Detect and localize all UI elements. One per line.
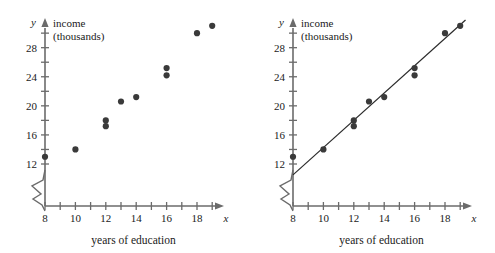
data-point: [290, 154, 296, 160]
x-tick-label: 12: [348, 212, 359, 224]
y-tick-label: 24: [274, 71, 286, 83]
data-point: [164, 72, 170, 78]
axis-break-zigzag: [32, 170, 45, 211]
axis-break-zigzag: [280, 170, 293, 211]
y-axis-name: y: [30, 16, 36, 28]
y-axis-caption-line2: (thousands): [53, 30, 105, 43]
x-tick-label: 14: [379, 212, 391, 224]
data-point: [72, 146, 78, 152]
x-tick-label: 14: [131, 212, 143, 224]
y-axis-name: y: [278, 16, 284, 28]
data-point: [164, 65, 170, 71]
data-point: [366, 98, 372, 104]
y-axis-caption-line2: (thousands): [301, 30, 353, 43]
chart-panel-right: 121620242881012141618yxincome(thousands)…: [248, 0, 495, 253]
y-tick-label: 16: [26, 129, 38, 141]
scatter-plot-left: 121620242881012141618yxincome(thousands)…: [0, 0, 247, 253]
data-point: [209, 23, 215, 29]
x-axis-arrowhead: [215, 202, 224, 209]
data-point: [442, 30, 448, 36]
y-tick-label: 20: [274, 100, 286, 112]
y-tick-label: 28: [274, 42, 286, 54]
y-tick-label: 16: [274, 129, 286, 141]
y-axis-arrowhead: [289, 18, 296, 27]
y-tick-label: 12: [26, 158, 37, 170]
x-tick-label: 12: [100, 212, 111, 224]
data-point: [351, 117, 357, 123]
x-tick-label: 18: [440, 212, 452, 224]
figure-container: 121620242881012141618yxincome(thousands)…: [0, 0, 495, 253]
data-point: [103, 123, 109, 129]
data-point: [103, 117, 109, 123]
data-point: [351, 123, 357, 129]
x-axis-title: years of education: [339, 234, 424, 247]
x-tick-label: 16: [409, 212, 421, 224]
x-tick-label: 10: [70, 212, 82, 224]
y-axis-arrowhead: [41, 18, 48, 27]
y-tick-label: 20: [26, 100, 38, 112]
x-axis-name: x: [471, 212, 477, 224]
x-axis-title: years of education: [91, 234, 176, 247]
y-tick-label: 28: [26, 42, 38, 54]
data-point: [457, 23, 463, 29]
chart-panel-left: 121620242881012141618yxincome(thousands)…: [0, 0, 247, 253]
x-tick-label: 8: [290, 212, 296, 224]
x-tick-label: 16: [161, 212, 173, 224]
scatter-plot-right: 121620242881012141618yxincome(thousands)…: [248, 0, 495, 253]
left-axes: 121620242881012141618yxincome(thousands)…: [26, 16, 229, 247]
data-point: [133, 94, 139, 100]
data-point: [412, 65, 418, 71]
right-axes: 121620242881012141618yxincome(thousands)…: [274, 16, 477, 247]
x-tick-label: 18: [192, 212, 204, 224]
x-tick-label: 10: [318, 212, 330, 224]
data-point: [412, 72, 418, 78]
data-point: [194, 30, 200, 36]
x-tick-label: 8: [42, 212, 48, 224]
data-point: [118, 98, 124, 104]
data-point: [381, 94, 387, 100]
y-axis-caption-line1: income: [53, 17, 85, 29]
x-axis-arrowhead: [463, 202, 472, 209]
x-axis-name: x: [223, 212, 229, 224]
data-point: [320, 146, 326, 152]
y-axis-caption-line1: income: [301, 17, 333, 29]
data-point: [42, 154, 48, 160]
y-tick-label: 24: [26, 71, 38, 83]
regression-line: [293, 20, 466, 175]
y-tick-label: 12: [274, 158, 285, 170]
